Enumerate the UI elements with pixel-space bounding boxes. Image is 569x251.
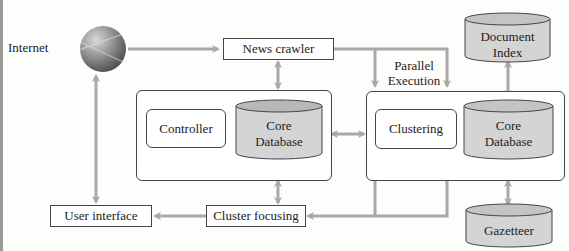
core-database-left: Core Database [235,99,323,161]
core-database-right: Core Database [463,99,554,161]
internet-label: Internet [8,40,48,56]
globe-icon [80,26,126,72]
cluster-focusing-node: Cluster focusing [206,205,306,227]
gazetteer-database: Gazetteer [465,203,553,249]
parallel-execution-label: Parallel Execution [386,58,442,88]
news-crawler-node: News crawler [223,38,334,60]
user-interface-node: User interface [50,205,152,227]
controller-node: Controller [146,109,226,148]
news-crawler-label: News crawler [243,41,315,57]
document-index-database: Document Index [464,12,551,64]
clustering-node: Clustering [375,109,457,149]
